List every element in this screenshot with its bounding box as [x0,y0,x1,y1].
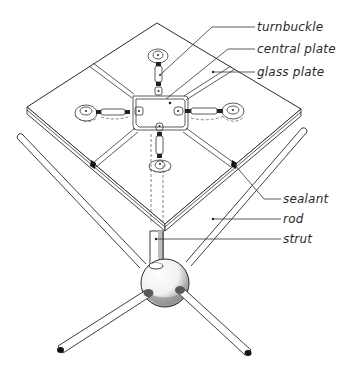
label-glass-plate: glass plate [257,65,324,79]
rod-lower-left [57,289,154,353]
label-sealant: sealant [283,192,329,206]
label-rod: rod [283,212,304,226]
label-turnbuckle: turnbuckle [257,20,323,34]
diagram-canvas: turnbuckle central plate glass plate sea… [0,0,350,374]
leader-sealant [234,164,281,199]
rod-lower-right [175,286,252,356]
label-central-plate: central plate [257,42,336,56]
hub-ball [141,259,189,307]
label-strut: strut [283,232,313,246]
